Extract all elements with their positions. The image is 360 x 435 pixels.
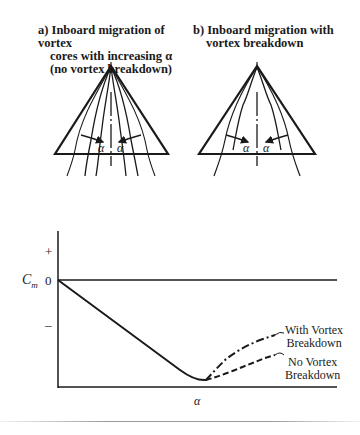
common-curve (58, 280, 206, 380)
bottom-divider (0, 421, 360, 422)
with-breakdown-curve (206, 335, 275, 380)
alpha-label-b-right: α (263, 141, 270, 155)
delta-wing-b (199, 62, 315, 176)
legend-with-breakdown: With Vortex Breakdown (285, 324, 343, 350)
x-axis-label: α (194, 394, 200, 409)
alpha-label-a-left: α (98, 141, 105, 155)
y-axis-label: Cm (22, 272, 38, 290)
ytick-zero: 0 (45, 273, 52, 289)
delta-wing-a (55, 62, 168, 176)
ytick-plus: + (45, 244, 52, 260)
chart-curves (58, 280, 284, 380)
alpha-label-a-right: α (117, 141, 124, 155)
alpha-label-b-left: α (243, 141, 250, 155)
legend-no-breakdown: No Vortex Breakdown (285, 356, 340, 382)
ytick-minus: – (45, 317, 52, 333)
